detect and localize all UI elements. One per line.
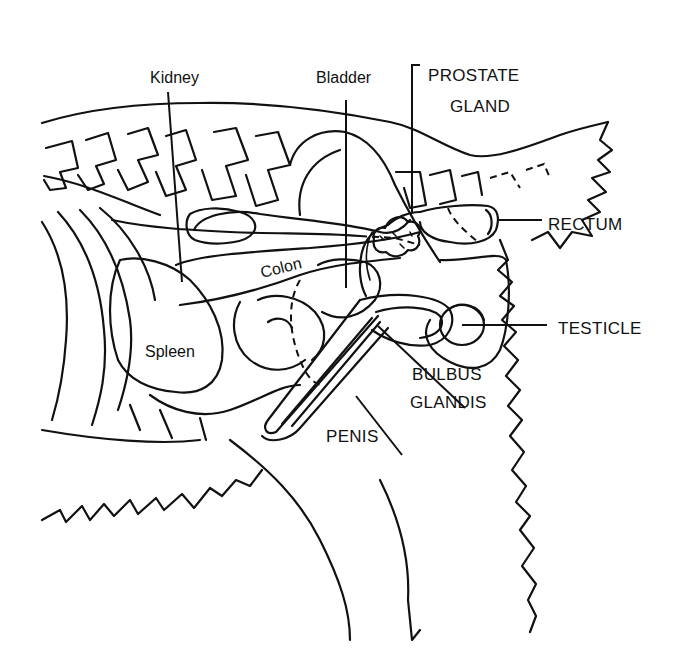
spleen-shape [110, 258, 223, 392]
spine-vertebrae [44, 128, 550, 208]
label-prostate-line2: GLAND [450, 97, 510, 116]
label-bladder: Bladder [316, 69, 372, 86]
label-spleen: Spleen [145, 343, 195, 360]
intestines [130, 280, 324, 440]
label-penis: PENIS [326, 427, 379, 446]
label-bulbus-line1: BULBUS [412, 365, 482, 384]
label-bulbus-line2: GLANDIS [410, 393, 487, 412]
label-kidney: Kidney [150, 69, 199, 86]
label-rectum: RECTUM [548, 215, 623, 234]
anatomy-diagram: Kidney Bladder PROSTATE GLAND RECTUM Col… [0, 0, 684, 671]
scrotum [426, 256, 509, 368]
belly-fur [42, 470, 262, 522]
label-testicle: TESTICLE [558, 319, 642, 338]
label-prostate-line1: PROSTATE [428, 66, 520, 85]
back-outline [42, 103, 608, 156]
